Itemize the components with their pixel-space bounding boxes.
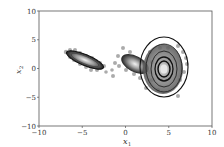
x-tick-label: −5 — [77, 129, 87, 137]
svg-text:2: 2 — [18, 66, 24, 69]
y-tick-label: −5 — [26, 94, 36, 102]
x-tick-label: 5 — [167, 129, 171, 137]
y-tick-label: 0 — [32, 65, 36, 73]
x-tick-label: 10 — [208, 129, 217, 137]
y-axis-label: x 2 — [14, 66, 24, 74]
x-axis-label: x 1 — [123, 137, 131, 147]
chart: −10 −5 0 5 10 10 5 0 −5 −10 x 1 x 2 — [0, 0, 224, 147]
density-cluster-3 — [140, 37, 188, 97]
density-cluster-1 — [64, 47, 105, 73]
x-tick-labels: −10 −5 0 5 10 — [32, 129, 217, 137]
svg-text:1: 1 — [128, 141, 131, 147]
plot-area — [64, 37, 189, 98]
x-tick-label: 0 — [123, 129, 127, 137]
y-tick-label: −10 — [21, 123, 36, 131]
y-tick-label: 5 — [32, 36, 36, 44]
y-tick-label: 10 — [27, 8, 36, 16]
